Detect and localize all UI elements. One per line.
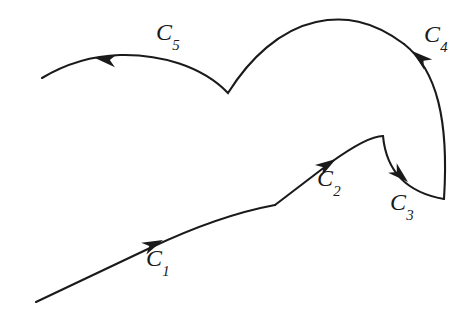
curve-label-c5-subscript: 5 <box>172 37 179 53</box>
curve-label-c4-base: C <box>424 21 440 47</box>
curve-label-c5-base: C <box>156 19 172 45</box>
curve-label-c5: C5 <box>156 20 179 49</box>
curve-label-c4-subscript: 4 <box>440 39 447 55</box>
curve-label-c3: C3 <box>390 190 413 219</box>
curve-label-c3-subscript: 3 <box>406 207 413 223</box>
curve-label-c1-subscript: 1 <box>162 263 169 279</box>
curve-diagram <box>0 0 467 322</box>
curve-label-c2: C2 <box>317 166 340 195</box>
curve-label-c3-base: C <box>390 189 406 215</box>
curve-label-c2-base: C <box>317 165 333 191</box>
curve-label-c1: C1 <box>146 246 169 275</box>
curve-path-c4 <box>404 44 445 199</box>
curve-path-c5 <box>42 20 404 93</box>
arrowhead-c5 <box>94 52 117 68</box>
curve-label-c4: C4 <box>424 22 447 51</box>
curve-label-c1-base: C <box>146 245 162 271</box>
curve-label-c2-subscript: 2 <box>333 183 340 199</box>
